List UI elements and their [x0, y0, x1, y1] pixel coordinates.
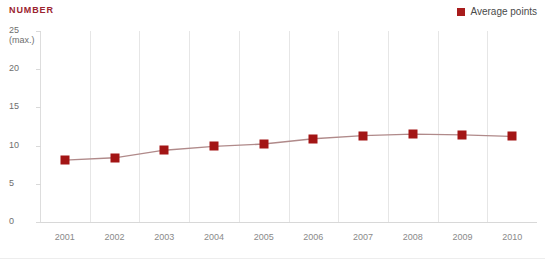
- y-axis-tick-label: 15: [9, 101, 45, 111]
- y-axis-max-note: (max.): [9, 35, 45, 45]
- x-axis-tick-label: 2006: [303, 232, 323, 242]
- gridline-vertical: [189, 31, 190, 222]
- data-point-marker[interactable]: [359, 131, 368, 140]
- data-point-marker[interactable]: [110, 153, 119, 162]
- y-axis-tick-label: 10: [9, 140, 45, 150]
- gridline-vertical: [239, 31, 240, 222]
- x-axis-tick-label: 2007: [353, 232, 373, 242]
- x-axis-tick-label: 2001: [55, 232, 75, 242]
- gridline-vertical: [90, 31, 91, 222]
- chart-legend: Average points: [457, 6, 537, 17]
- y-axis-tick-label: 25(max.): [9, 25, 45, 45]
- x-axis-tick-label: 2002: [105, 232, 125, 242]
- data-point-marker[interactable]: [408, 130, 417, 139]
- y-axis-tick: [36, 69, 41, 70]
- data-point-marker[interactable]: [60, 156, 69, 165]
- x-axis-line: [40, 222, 537, 223]
- y-axis-tick: [36, 222, 41, 223]
- y-axis-tick: [36, 31, 41, 32]
- square-marker-icon: [457, 8, 465, 16]
- x-axis-tick-label: 2010: [502, 232, 522, 242]
- y-axis-tick-label: 0: [9, 216, 45, 226]
- y-axis-tick: [36, 107, 41, 108]
- page-title: NUMBER: [9, 5, 54, 15]
- data-point-marker[interactable]: [160, 146, 169, 155]
- data-point-marker[interactable]: [508, 132, 517, 141]
- x-axis-tick-label: 2008: [403, 232, 423, 242]
- y-axis-tick-label: 20: [9, 63, 45, 73]
- gridline-vertical: [338, 31, 339, 222]
- data-point-marker[interactable]: [458, 130, 467, 139]
- chart-container: NUMBER Average points 0510152025(max.) 2…: [0, 0, 545, 259]
- x-axis-tick-label: 2004: [204, 232, 224, 242]
- y-axis-tick-label: 5: [9, 178, 45, 188]
- x-axis-tick-label: 2003: [154, 232, 174, 242]
- plot-area: [40, 31, 537, 222]
- legend-item-label: Average points: [470, 6, 537, 17]
- data-point-marker[interactable]: [209, 142, 218, 151]
- x-axis-tick-label: 2005: [254, 232, 274, 242]
- x-axis-tick-label: 2009: [452, 232, 472, 242]
- data-point-marker[interactable]: [309, 134, 318, 143]
- gridline-vertical: [139, 31, 140, 222]
- data-point-marker[interactable]: [259, 140, 268, 149]
- gridline-vertical: [388, 31, 389, 222]
- gridline-vertical: [289, 31, 290, 222]
- gridline-vertical: [438, 31, 439, 222]
- gridline-vertical: [487, 31, 488, 222]
- y-axis-tick: [36, 184, 41, 185]
- y-axis-tick: [36, 146, 41, 147]
